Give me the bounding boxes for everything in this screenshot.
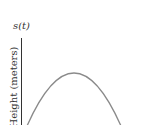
chart-plot <box>0 0 152 125</box>
parabola-curve <box>27 73 121 125</box>
